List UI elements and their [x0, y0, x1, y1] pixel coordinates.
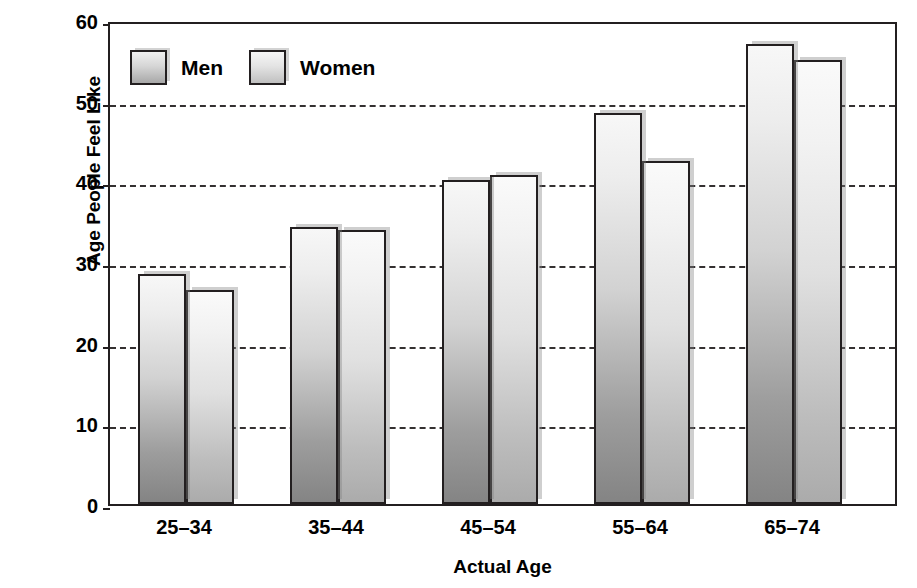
bar-women[interactable]: [186, 24, 234, 504]
legend-item-women[interactable]: Women: [249, 50, 375, 85]
bar-rect[interactable]: [746, 44, 794, 504]
bar-women[interactable]: [642, 24, 690, 504]
y-axis-tick-label: 50: [40, 93, 98, 113]
bar-rect[interactable]: [138, 274, 186, 504]
x-axis-tick-label: 45–54: [428, 516, 548, 539]
legend: MenWomen: [130, 50, 375, 85]
bar-rect[interactable]: [794, 60, 842, 504]
bar-chart: Age People Feel Like 0102030405060 MenWo…: [0, 0, 917, 588]
bar-group: [442, 24, 538, 504]
bar-group: [290, 24, 386, 504]
bar-rect[interactable]: [442, 180, 490, 504]
bar-men[interactable]: [442, 24, 490, 504]
y-axis-tick-label: 10: [40, 415, 98, 435]
legend-label: Men: [181, 56, 223, 80]
x-axis-tick-label: 55–64: [580, 516, 700, 539]
x-axis-title: Actual Age: [108, 556, 897, 578]
bar-rect[interactable]: [338, 230, 386, 504]
y-axis-tick-mark: [103, 24, 110, 26]
bar-rect[interactable]: [594, 113, 642, 504]
legend-item-men[interactable]: Men: [130, 50, 223, 85]
bar-rect[interactable]: [186, 290, 234, 504]
y-axis-tick-label: 20: [40, 335, 98, 355]
x-axis-tick-label: 65–74: [732, 516, 852, 539]
plot-area: MenWomen: [108, 22, 897, 506]
bar-men[interactable]: [290, 24, 338, 504]
legend-swatch-men: [130, 50, 167, 85]
bar-group: [746, 24, 842, 504]
y-axis-tick-label: 0: [40, 496, 98, 516]
bar-group: [594, 24, 690, 504]
legend-swatch-women: [249, 50, 286, 85]
y-axis-tick-mark: [103, 508, 110, 510]
x-axis-tick-labels: 25–3435–4445–5455–6465–74: [108, 516, 897, 546]
y-axis-tick-label: 30: [40, 254, 98, 274]
bar-women[interactable]: [490, 24, 538, 504]
x-axis-tick-label: 35–44: [276, 516, 396, 539]
y-axis-tick-mark: [103, 427, 110, 429]
y-axis-tick-mark: [103, 266, 110, 268]
bar-group: [138, 24, 234, 504]
bar-men[interactable]: [138, 24, 186, 504]
bar-women[interactable]: [338, 24, 386, 504]
y-axis-tick-labels: 0102030405060: [40, 0, 98, 588]
legend-label: Women: [300, 56, 375, 80]
y-axis-tick-mark: [103, 185, 110, 187]
bar-men[interactable]: [746, 24, 794, 504]
bar-rect[interactable]: [490, 175, 538, 504]
y-axis-tick-label: 60: [40, 12, 98, 32]
bar-rect[interactable]: [290, 227, 338, 504]
y-axis-tick-mark: [103, 347, 110, 349]
y-axis-tick-label: 40: [40, 173, 98, 193]
y-axis-tick-mark: [103, 105, 110, 107]
x-axis-tick-label: 25–34: [124, 516, 244, 539]
bar-men[interactable]: [594, 24, 642, 504]
bar-women[interactable]: [794, 24, 842, 504]
bar-rect[interactable]: [642, 161, 690, 504]
